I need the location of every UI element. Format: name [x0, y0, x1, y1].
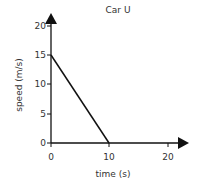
y-axis-arrow-icon — [45, 13, 57, 24]
series-line-car-u — [51, 55, 109, 143]
x-axis-arrow-icon — [178, 137, 189, 149]
x-tick-20: 20 — [162, 152, 174, 162]
speed-time-chart: Car U 0 5 10 15 20 0 10 20 time (s) spee… — [0, 0, 197, 191]
y-axis-label: speed (m/s) — [14, 58, 24, 112]
y-tick-15: 15 — [35, 50, 46, 60]
y-tick-0: 0 — [40, 138, 46, 148]
x-tick-0: 0 — [48, 152, 54, 162]
y-tick-10: 10 — [35, 79, 47, 89]
x-tick-10: 10 — [103, 152, 115, 162]
x-axis-label: time (s) — [96, 169, 131, 179]
y-tick-5: 5 — [40, 109, 46, 119]
y-tick-20: 20 — [35, 21, 47, 31]
chart-title: Car U — [106, 5, 131, 15]
